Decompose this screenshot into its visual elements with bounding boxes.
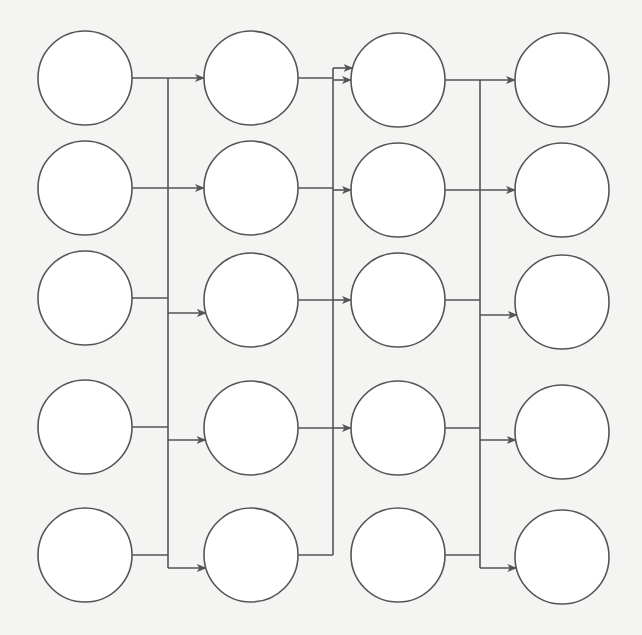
- node-c3-r3: [351, 253, 445, 347]
- node-c2-r1: [204, 31, 298, 125]
- node-c2-r3: [204, 253, 298, 347]
- node-c4-r1: [515, 33, 609, 127]
- node-c3-r2: [351, 143, 445, 237]
- node-c2-r5: [204, 508, 298, 602]
- node-c2-r4: [204, 381, 298, 475]
- node-c4-r2: [515, 143, 609, 237]
- node-c4-r4: [515, 385, 609, 479]
- node-c3-r5: [351, 508, 445, 602]
- connection-lines: [132, 68, 517, 568]
- node-c3-r4: [351, 381, 445, 475]
- node-c3-r1: [351, 33, 445, 127]
- node-c4-r5: [515, 510, 609, 604]
- network-diagram: [0, 0, 642, 635]
- node-c1-r4: [38, 380, 132, 474]
- node-c4-r3: [515, 255, 609, 349]
- node-c1-r1: [38, 31, 132, 125]
- node-c1-r2: [38, 141, 132, 235]
- node-circles: [38, 31, 609, 604]
- node-c1-r3: [38, 251, 132, 345]
- node-c1-r5: [38, 508, 132, 602]
- diagram-canvas: [0, 0, 642, 635]
- node-c2-r2: [204, 141, 298, 235]
